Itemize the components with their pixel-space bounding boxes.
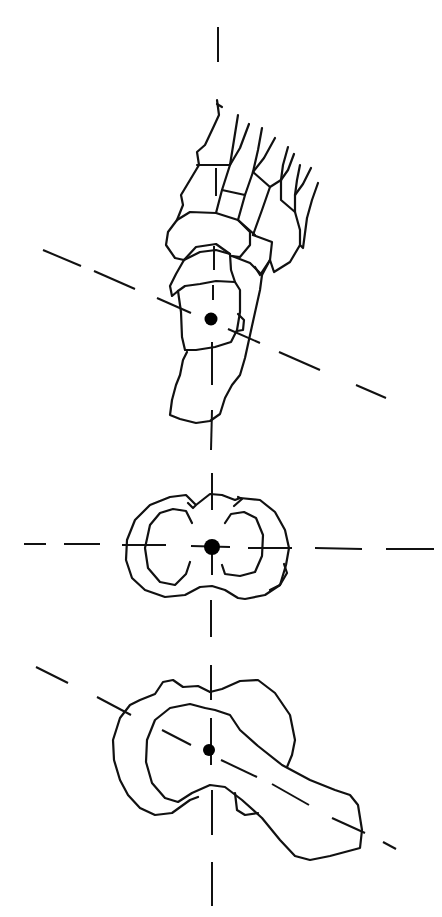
vertical-axis-1 [211, 27, 218, 450]
pivot-point-1 [205, 313, 218, 326]
vertical-axis-2 [211, 473, 212, 637]
foot-skeleton-panel [43, 27, 386, 450]
pivot-point-2 [204, 539, 220, 555]
phalanges [197, 100, 318, 218]
pivot-point-3 [203, 744, 215, 756]
calcaneus-panel [36, 665, 396, 906]
talus-cross-section-panel [24, 473, 434, 637]
metatarsals [177, 165, 307, 248]
oblique-axis-3 [36, 667, 396, 849]
calcaneus-inner [146, 704, 362, 860]
cuneiforms-navicular [166, 220, 300, 275]
anatomy-figure [0, 0, 442, 917]
horizontal-axis-2 [24, 544, 434, 549]
